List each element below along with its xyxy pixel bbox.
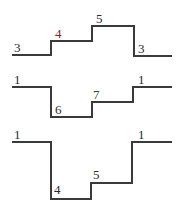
level-label: 3 bbox=[138, 41, 145, 56]
level-label: 5 bbox=[96, 11, 103, 26]
level-label: 5 bbox=[93, 167, 100, 182]
level-label: 1 bbox=[14, 72, 21, 87]
level-label: 1 bbox=[138, 127, 145, 142]
step-line-1 bbox=[12, 26, 172, 56]
step-diagrams: 3 4 5 3 1 6 7 1 1 4 5 1 bbox=[0, 0, 182, 210]
staircase-diagram-3: 1 4 5 1 bbox=[12, 127, 172, 199]
level-label: 7 bbox=[93, 87, 100, 102]
level-label: 1 bbox=[138, 72, 145, 87]
level-label: 6 bbox=[55, 102, 62, 117]
level-label: 1 bbox=[14, 127, 21, 142]
staircase-diagram-1: 3 4 5 3 bbox=[12, 11, 172, 56]
step-line-2 bbox=[12, 87, 172, 117]
level-label: 4 bbox=[55, 26, 62, 41]
staircase-diagram-2: 1 6 7 1 bbox=[12, 72, 172, 117]
level-label: 3 bbox=[14, 40, 21, 55]
step-line-3 bbox=[12, 142, 172, 199]
level-label: 4 bbox=[54, 182, 61, 197]
